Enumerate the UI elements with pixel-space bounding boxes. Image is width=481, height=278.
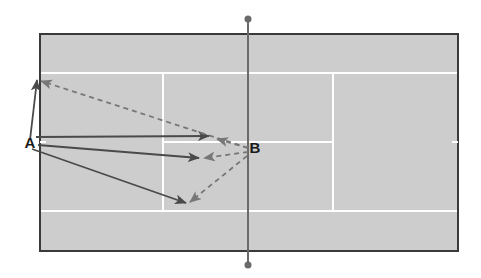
net-post-top-icon xyxy=(245,16,252,23)
net-post-bottom-icon xyxy=(245,262,252,269)
tennis-court-diagram: A B xyxy=(0,0,481,278)
shot-arrow-A-to-top-corner xyxy=(30,80,37,140)
player-a-label: A xyxy=(25,134,36,151)
player-b-label: B xyxy=(250,139,261,156)
shot-arrow-A-to-center-service-T xyxy=(36,136,209,137)
